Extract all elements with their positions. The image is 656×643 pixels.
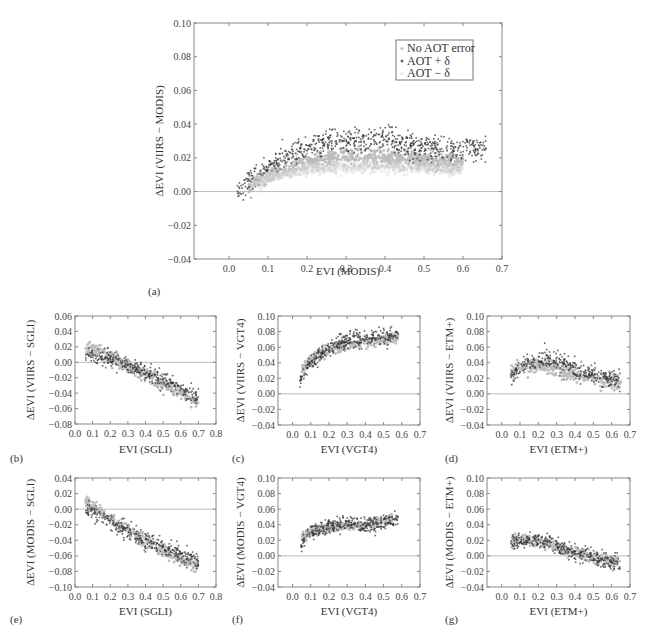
data-point-aot-plus xyxy=(397,138,399,140)
data-point-aot-plus xyxy=(380,337,382,339)
data-point-aot-plus xyxy=(607,378,609,380)
data-point-aot-plus xyxy=(571,551,573,553)
data-point-aot-plus xyxy=(525,543,527,545)
data-point-aot-plus xyxy=(321,139,323,141)
data-point-aot-plus xyxy=(194,563,196,565)
data-point-aot-plus xyxy=(396,519,398,521)
data-point-aot-plus xyxy=(524,368,526,370)
data-point-aot-plus xyxy=(434,152,436,154)
data-point-aot-plus xyxy=(337,347,339,349)
data-point-aot-plus xyxy=(469,142,471,144)
data-point-aot-minus xyxy=(362,171,364,173)
data-point-aot-plus xyxy=(324,531,326,533)
data-point-aot-plus xyxy=(314,143,316,145)
data-point-no-aot-error xyxy=(300,158,303,161)
data-point-aot-plus xyxy=(104,348,106,350)
data-point-aot-plus xyxy=(85,357,87,359)
data-point-aot-plus xyxy=(442,158,444,160)
data-point-aot-plus xyxy=(364,522,366,524)
data-point-aot-plus xyxy=(255,164,257,166)
y-tick-label: 0.06 xyxy=(467,504,485,515)
data-point-aot-plus xyxy=(198,388,200,390)
data-point-no-aot-error xyxy=(383,156,386,159)
data-point-aot-plus xyxy=(129,363,131,365)
data-point-aot-plus xyxy=(350,342,352,344)
data-point-aot-plus xyxy=(95,517,97,519)
data-point-aot-plus xyxy=(285,162,287,164)
data-point-aot-plus xyxy=(130,372,132,374)
data-point-aot-plus xyxy=(591,380,593,382)
data-point-aot-plus xyxy=(405,142,407,144)
y-tick-label: 0.04 xyxy=(258,519,276,530)
data-point-aot-plus xyxy=(365,135,367,137)
data-point-aot-plus xyxy=(605,373,607,375)
data-point-aot-plus xyxy=(325,519,327,521)
data-point-aot-plus xyxy=(319,531,321,533)
data-point-no-aot-error xyxy=(363,518,366,521)
data-point-aot-plus xyxy=(239,188,241,190)
data-point-aot-plus xyxy=(103,362,105,364)
data-point-aot-plus xyxy=(382,130,384,132)
data-point-aot-plus xyxy=(150,363,152,365)
data-point-aot-plus xyxy=(336,529,338,531)
data-point-aot-plus xyxy=(615,561,617,563)
data-point-aot-plus xyxy=(544,359,546,361)
data-point-aot-plus xyxy=(518,532,520,534)
data-point-aot-plus xyxy=(526,365,528,367)
data-point-aot-plus xyxy=(346,150,348,152)
x-tick-label: 0.6 xyxy=(605,591,618,602)
y-tick-label: −0.04 xyxy=(252,420,275,431)
data-point-aot-plus xyxy=(305,373,307,375)
data-point-aot-plus xyxy=(571,548,573,550)
data-point-aot-plus xyxy=(101,359,103,361)
data-point-aot-plus xyxy=(345,520,347,522)
data-point-no-aot-error xyxy=(84,498,87,501)
data-point-aot-plus xyxy=(360,138,362,140)
data-point-aot-plus xyxy=(87,353,89,355)
data-point-aot-plus xyxy=(382,134,384,136)
data-point-aot-plus xyxy=(133,529,135,531)
data-point-aot-plus xyxy=(294,142,296,144)
data-point-aot-plus xyxy=(434,134,436,136)
data-point-aot-plus xyxy=(523,544,525,546)
data-point-aot-plus xyxy=(390,327,392,329)
data-point-aot-plus xyxy=(376,331,378,333)
data-point-aot-plus xyxy=(322,356,324,358)
data-point-no-aot-error xyxy=(390,513,393,516)
data-point-no-aot-error xyxy=(374,150,377,153)
data-point-aot-plus xyxy=(183,560,185,562)
data-point-aot-plus xyxy=(337,132,339,134)
data-point-aot-plus xyxy=(374,535,376,537)
data-point-aot-plus xyxy=(239,182,241,184)
data-point-aot-plus xyxy=(151,540,153,542)
data-point-aot-plus xyxy=(96,521,98,523)
data-point-aot-minus xyxy=(454,172,456,174)
data-point-aot-plus xyxy=(574,543,576,545)
data-point-aot-plus xyxy=(124,360,126,362)
data-point-aot-plus xyxy=(165,554,167,556)
data-point-aot-plus xyxy=(389,520,391,522)
data-point-aot-minus xyxy=(369,172,371,174)
x-tick-label: 0.5 xyxy=(587,591,600,602)
x-tick-label: 0.3 xyxy=(341,429,354,440)
data-point-aot-plus xyxy=(242,184,244,186)
data-point-aot-plus xyxy=(568,547,570,549)
x-tick-label: 0.5 xyxy=(157,591,170,602)
data-point-aot-plus xyxy=(341,140,343,142)
data-point-no-aot-error xyxy=(547,369,550,372)
data-point-aot-plus xyxy=(616,379,618,381)
data-point-aot-plus xyxy=(357,132,359,134)
data-point-aot-plus xyxy=(394,142,396,144)
data-point-aot-plus xyxy=(327,145,329,147)
data-point-aot-plus xyxy=(335,337,337,339)
data-point-aot-plus xyxy=(160,378,162,380)
data-point-aot-plus xyxy=(184,562,186,564)
data-point-no-aot-error xyxy=(154,370,157,373)
data-point-aot-plus xyxy=(127,526,129,528)
data-point-aot-plus xyxy=(328,528,330,530)
data-point-aot-plus xyxy=(120,360,122,362)
data-point-aot-plus xyxy=(138,533,140,535)
data-point-aot-plus xyxy=(301,153,303,155)
data-point-aot-plus xyxy=(102,365,104,367)
data-point-aot-plus xyxy=(393,525,395,527)
